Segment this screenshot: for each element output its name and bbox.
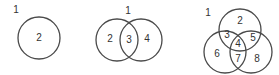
venn-three-set: 12354678 bbox=[204, 7, 272, 74]
region-label: 2 bbox=[237, 15, 243, 26]
region-label: 7 bbox=[235, 53, 241, 64]
venn-diagrams-canvas: 12123412354678 bbox=[0, 0, 279, 75]
outside-region-label: 1 bbox=[205, 7, 211, 18]
region-label: 4 bbox=[235, 38, 241, 49]
region-label: 3 bbox=[224, 29, 230, 40]
region-label: 3 bbox=[126, 34, 132, 45]
region-label: 2 bbox=[36, 32, 42, 43]
region-label: 4 bbox=[144, 33, 150, 44]
region-label: 5 bbox=[250, 32, 256, 43]
outside-region-label: 1 bbox=[13, 4, 19, 15]
region-label: 8 bbox=[254, 53, 260, 64]
region-label: 6 bbox=[214, 48, 220, 59]
region-label: 2 bbox=[107, 33, 113, 44]
venn-two-set: 1234 bbox=[96, 5, 162, 62]
venn-one-set: 12 bbox=[13, 4, 60, 60]
outside-region-label: 1 bbox=[125, 5, 131, 16]
